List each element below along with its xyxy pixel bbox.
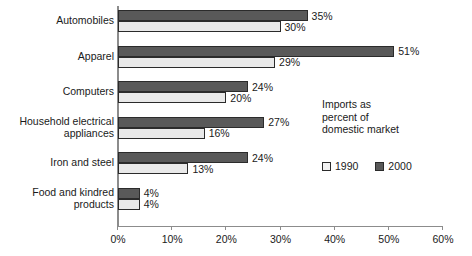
x-tick: [334, 226, 335, 230]
legend-title: Imports aspercent ofdomestic market: [322, 98, 462, 136]
bar-2000: [118, 117, 264, 128]
x-tick: [225, 226, 226, 230]
legend-swatch-icon: [322, 162, 331, 171]
legend-swatch-icon: [375, 162, 384, 171]
category-label-line: Apparel: [0, 51, 114, 63]
legend: Imports aspercent ofdomestic market 1990…: [322, 98, 462, 136]
legend-title-line: domestic market: [322, 123, 462, 136]
x-tick: [388, 226, 389, 230]
bar-2000: [118, 81, 248, 92]
bar-1990: [118, 21, 281, 32]
bar-1990: [118, 57, 275, 68]
category-label: Computers: [0, 86, 114, 98]
category-label: Apparel: [0, 51, 114, 63]
bar-value-1990: 16%: [209, 128, 230, 139]
legend-item: 2000: [375, 160, 411, 172]
x-tick-label: 0%: [110, 233, 125, 245]
category-label: Iron and steel: [0, 157, 114, 169]
legend-item: 1990: [322, 160, 358, 172]
bar-value-2000: 24%: [252, 153, 273, 164]
x-tick: [442, 226, 443, 230]
category-label-line: Household electrical: [0, 116, 114, 128]
bar-2000: [118, 10, 308, 21]
category-label-line: appliances: [0, 128, 114, 140]
bar-value-2000: 51%: [398, 46, 419, 57]
x-tick: [280, 226, 281, 230]
x-tick-label: 50%: [378, 233, 399, 245]
bar-2000: [118, 152, 248, 163]
legend-label: 1990: [335, 160, 358, 172]
bar-1990: [118, 128, 205, 139]
bar-value-2000: 35%: [312, 11, 333, 22]
bar-value-2000: 27%: [268, 117, 289, 128]
bar-value-1990: 20%: [230, 93, 251, 104]
legend-label: 2000: [388, 160, 411, 172]
bar-1990: [118, 199, 140, 210]
legend-keys: 19902000: [322, 160, 412, 172]
category-label: Household electricalappliances: [0, 116, 114, 139]
x-tick-label: 60%: [432, 233, 453, 245]
bar-value-1990: 13%: [192, 164, 213, 175]
category-label-line: products: [0, 199, 114, 211]
category-label-line: Iron and steel: [0, 157, 114, 169]
bar-value-2000: 24%: [252, 82, 273, 93]
imports-bar-chart: AutomobilesApparelComputersHousehold ele…: [0, 0, 472, 256]
category-axis-labels: AutomobilesApparelComputersHousehold ele…: [0, 0, 114, 226]
legend-title-line: percent of: [322, 111, 462, 124]
bar-value-1990: 30%: [285, 22, 306, 33]
bar-1990: [118, 163, 188, 174]
x-tick-label: 40%: [324, 233, 345, 245]
x-tick-label: 10%: [162, 233, 183, 245]
category-label-line: Food and kindred: [0, 187, 114, 199]
x-tick-label: 20%: [216, 233, 237, 245]
bar-2000: [118, 188, 140, 199]
legend-title-line: Imports as: [322, 98, 462, 111]
bar-value-1990: 29%: [279, 57, 300, 68]
x-tick-label: 30%: [270, 233, 291, 245]
x-tick: [117, 226, 118, 230]
bar-value-1990: 4%: [144, 199, 159, 210]
category-label-line: Automobiles: [0, 15, 114, 27]
x-tick: [171, 226, 172, 230]
category-label-line: Computers: [0, 86, 114, 98]
category-label: Food and kindredproducts: [0, 187, 114, 210]
bar-2000: [118, 46, 394, 57]
category-label: Automobiles: [0, 15, 114, 27]
bar-1990: [118, 92, 226, 103]
